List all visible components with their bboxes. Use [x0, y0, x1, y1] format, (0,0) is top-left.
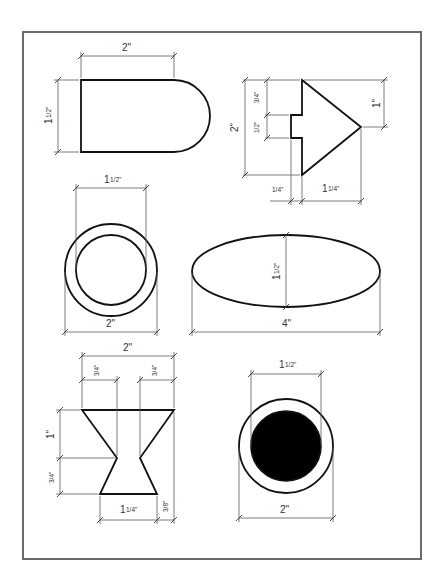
shape-filled-ring: 1 1/2" 2"	[236, 359, 336, 522]
dim-label: 2"	[280, 504, 290, 515]
dim-label: 3/8"	[162, 500, 169, 512]
dim-label: 1"	[371, 98, 382, 108]
dim-label: 2"	[106, 318, 116, 329]
shape-hourglass: 2" 3/4" 3/4" 1" 3/4" 1 1/4" 3/8"	[45, 342, 177, 524]
dim-label: 3/4"	[93, 364, 100, 376]
shape-ring: 1 1/2" 2"	[62, 174, 160, 336]
sheet-border	[23, 32, 421, 559]
dim-label: 1/2"	[253, 121, 260, 133]
dim-label: 2"	[122, 42, 132, 53]
dim-label: 4"	[282, 318, 292, 329]
dim-label: 1/2"	[110, 176, 122, 183]
dim-label: 1/4"	[126, 506, 138, 513]
shape-notched-arrow: 3/4" 1/2" 2" 1" 1/4" 1 1/4"	[229, 77, 388, 205]
dim-label: 3/4"	[253, 91, 260, 103]
dim-label: 3/4"	[151, 364, 158, 376]
dim-label: 2"	[123, 342, 133, 353]
dim-label: 1/2"	[285, 361, 297, 368]
dim-label: 2"	[229, 122, 240, 132]
dim-label: 1/2"	[45, 106, 52, 118]
dim-label: 3/4"	[48, 471, 55, 483]
drawing-sheet: 2" 1 1/2" 3/4" 1/2" 2" 1"	[0, 0, 443, 586]
filled-inner-circle	[251, 411, 321, 481]
dim-label: 1/4"	[328, 185, 340, 192]
dim-label: 1/2"	[273, 262, 280, 274]
shape-rounded-rectangle: 2" 1 1/2"	[43, 42, 210, 155]
shape-ellipse: 1 1/2" 4"	[189, 232, 383, 336]
dim-label: 1"	[45, 429, 56, 439]
dim-label: 1/4"	[272, 186, 284, 193]
